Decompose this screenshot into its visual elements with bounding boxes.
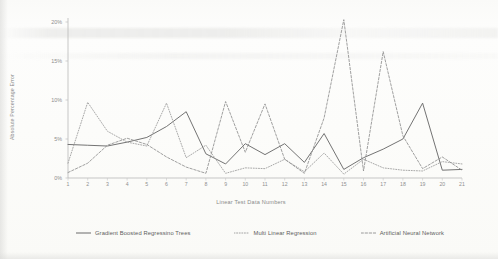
x-tick-label: 19 [417,181,429,187]
legend-line-swatch-icon [361,231,376,235]
x-tick-label: 17 [377,181,389,187]
x-tick-label: 7 [180,181,192,187]
plot-area [0,0,498,259]
x-tick-label: 18 [397,181,409,187]
legend-item: Artificial Neural Network [361,230,444,236]
legend-item: Multi Linear Regression [234,230,316,236]
x-tick-label: 10 [239,181,251,187]
y-tick-label: 0% [40,175,62,181]
legend-item-label: Artificial Neural Network [380,230,444,236]
x-tick-label: 4 [121,181,133,187]
x-tick-label: 11 [259,181,271,187]
x-tick-label: 8 [200,181,212,187]
x-tick-label: 5 [141,181,153,187]
legend-line-swatch-icon [76,231,91,235]
x-tick-label: 15 [338,181,350,187]
legend-item-label: Gradient Boosted Regressino Trees [95,230,190,236]
line-chart: Absolute Percentage Error Linear Test Da… [0,0,498,259]
y-tick-label: 5% [40,136,62,142]
legend-item: Gradient Boosted Regressino Trees [76,230,190,236]
y-tick-label: 10% [40,97,62,103]
x-tick-label: 1 [62,181,74,187]
series-line-2 [68,20,462,174]
y-axis-title: Absolute Percentage Error [9,64,15,150]
chart-legend: Gradient Boosted Regressino TreesMulti L… [60,226,460,240]
x-tick-label: 20 [436,181,448,187]
x-tick-label: 21 [456,181,468,187]
x-tick-label: 3 [101,181,113,187]
y-tick-label: 15% [40,58,62,64]
x-tick-label: 6 [161,181,173,187]
x-tick-label: 16 [358,181,370,187]
x-axis-title: Linear Test Data Numbers [196,199,306,205]
legend-line-swatch-icon [234,231,249,235]
x-tick-label: 13 [298,181,310,187]
legend-item-label: Multi Linear Regression [253,230,316,236]
x-tick-label: 12 [279,181,291,187]
y-tick-label: 20% [40,19,62,25]
x-tick-label: 2 [82,181,94,187]
x-tick-label: 9 [220,181,232,187]
x-tick-label: 14 [318,181,330,187]
